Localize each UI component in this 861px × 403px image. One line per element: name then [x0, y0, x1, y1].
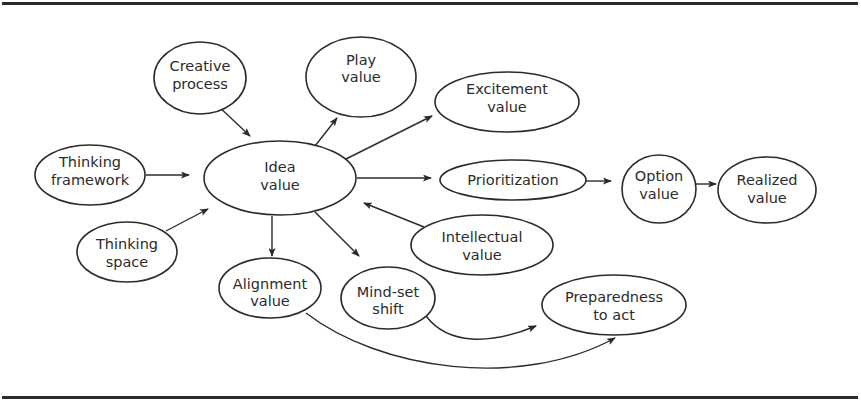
node-creative-process: Creative process — [154, 42, 246, 114]
node-excitement-value: Excitement value — [435, 72, 579, 132]
node-idea-value: Idea value — [204, 141, 356, 215]
node-label: Excitement — [466, 81, 548, 97]
node-label: Alignment — [233, 276, 308, 292]
node-label: value — [639, 186, 679, 202]
node-label: Option — [635, 168, 683, 184]
node-shape — [542, 275, 686, 335]
node-label: value — [747, 190, 787, 206]
node-alignment-value: Alignment value — [219, 258, 321, 318]
node-label: Mind-set — [357, 284, 420, 300]
node-label: value — [487, 99, 527, 115]
node-shape — [411, 215, 553, 275]
node-label: space — [106, 254, 149, 270]
edge-space-to-idea — [166, 209, 208, 231]
edge-idea-to-play — [315, 118, 337, 146]
idea-value-diagram: Creative process Play value Excitement v… — [0, 0, 861, 403]
edge-intellectual-to-idea — [364, 203, 424, 227]
node-intellectual-value: Intellectual value — [411, 215, 553, 275]
node-mind-set-shift: Mind-set shift — [341, 267, 435, 329]
node-label: framework — [51, 172, 130, 188]
node-play-value: Play value — [306, 37, 416, 117]
bottom-rule — [2, 396, 858, 399]
node-label: Prioritization — [467, 172, 558, 188]
node-preparedness-to-act: Preparedness to act — [542, 275, 686, 335]
node-label: to act — [593, 307, 635, 323]
node-realized-value: Realized value — [718, 157, 816, 223]
node-label: Intellectual — [442, 229, 523, 245]
top-rule — [2, 2, 858, 5]
node-label: shift — [372, 301, 404, 317]
node-label: value — [250, 293, 290, 309]
node-thinking-framework: Thinking framework — [35, 145, 145, 205]
node-label: value — [341, 69, 381, 85]
node-label: Realized — [736, 172, 797, 188]
node-label: Play — [346, 52, 377, 68]
edge-idea-to-mindset — [315, 212, 359, 256]
node-thinking-space: Thinking space — [77, 222, 177, 282]
node-label: Idea — [264, 159, 295, 175]
node-label: Thinking — [95, 236, 158, 252]
edge-mindset-to-preparedness — [426, 316, 536, 339]
edge-idea-to-excitement — [346, 116, 432, 159]
node-label: Thinking — [58, 154, 121, 170]
node-label: value — [260, 177, 300, 193]
node-label: Preparedness — [565, 289, 663, 305]
node-label: process — [172, 76, 228, 92]
node-prioritization: Prioritization — [440, 160, 586, 200]
node-label: value — [462, 247, 502, 263]
node-option-value: Option value — [622, 155, 696, 223]
node-label: Creative — [170, 58, 231, 74]
node-shape — [77, 222, 177, 282]
